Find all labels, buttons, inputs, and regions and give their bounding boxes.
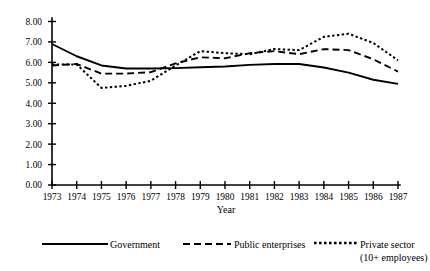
- y-tick-label: 8.00: [26, 17, 43, 27]
- x-tick-label: 1977: [141, 192, 160, 202]
- y-tick-label: 1.00: [26, 160, 43, 170]
- y-tick-label: 6.00: [26, 58, 43, 68]
- x-axis-title: Year: [217, 204, 236, 215]
- legend-label-private-sector-sub: (10+ employees): [360, 252, 428, 264]
- x-tick-label: 1980: [216, 192, 235, 202]
- y-tick-label: 5.00: [26, 78, 43, 88]
- x-tick-label: 1982: [265, 192, 284, 202]
- x-tick-label: 1986: [364, 192, 383, 202]
- x-tick-label: 1987: [389, 192, 408, 202]
- x-tick-label: 1976: [117, 192, 136, 202]
- x-tick-label: 1979: [191, 192, 210, 202]
- y-tick-label: 3.00: [26, 119, 43, 129]
- legend: Government Public enterprises Private se…: [42, 239, 428, 264]
- y-tick-label: 4.00: [26, 99, 43, 109]
- x-tick-label: 1978: [166, 192, 185, 202]
- x-tick-label: 1981: [240, 192, 259, 202]
- line-chart: 0.001.002.003.004.005.006.007.008.00 197…: [0, 0, 430, 271]
- chart-container: 0.001.002.003.004.005.006.007.008.00 197…: [0, 0, 430, 271]
- x-tick-label: 1973: [43, 192, 62, 202]
- series-line-public-enterprises: [52, 49, 398, 74]
- x-axis-ticks: 1973197419751976197719781979198019811982…: [43, 181, 408, 202]
- legend-label-private-sector: Private sector: [360, 239, 415, 250]
- x-tick-label: 1985: [339, 192, 358, 202]
- x-tick-label: 1974: [67, 192, 86, 202]
- legend-label-public-enterprises: Public enterprises: [234, 239, 305, 250]
- y-tick-label: 0.00: [26, 180, 43, 190]
- x-tick-label: 1984: [314, 192, 333, 202]
- series-line-private-sector: [52, 34, 398, 88]
- y-tick-label: 2.00: [26, 140, 43, 150]
- legend-label-government: Government: [110, 239, 160, 250]
- x-tick-label: 1983: [290, 192, 309, 202]
- x-tick-label: 1975: [92, 192, 111, 202]
- y-tick-label: 7.00: [26, 37, 43, 47]
